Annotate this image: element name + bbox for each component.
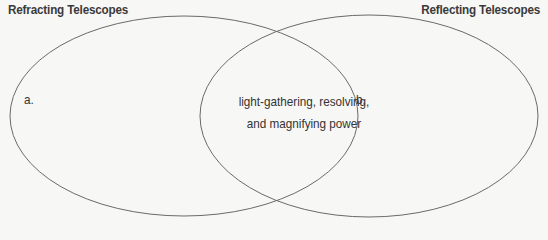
overlap-text: light-gathering, resolving, and magnifyi…	[233, 91, 375, 135]
overlap-line-1: light-gathering, resolving,	[233, 91, 375, 113]
region-a-label: a.	[24, 92, 34, 107]
overlap-line-2: and magnifying power	[233, 113, 375, 135]
